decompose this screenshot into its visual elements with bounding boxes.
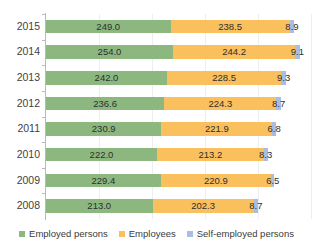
axis-tick [42, 168, 46, 169]
legend-item[interactable]: Self-employed persons [187, 228, 294, 239]
bar-value-label: 224.3 [164, 97, 276, 111]
bar-value-label: 222.0 [46, 148, 157, 162]
legend-label: Self-employed persons [197, 228, 294, 239]
bar-row: 2011230.9221.96.8 [46, 117, 311, 143]
bar-value-label: 213.2 [157, 148, 264, 162]
legend-swatch-icon [19, 231, 25, 237]
bar-value-label: 9.3 [270, 71, 298, 85]
bar-value-label: 230.9 [46, 122, 161, 136]
stacked-bar-chart: 2015249.0238.58.92014254.0244.29.1201324… [0, 0, 313, 248]
bar-value-label: 236.6 [46, 97, 164, 111]
axis-tick [42, 14, 46, 15]
legend-label: Employees [129, 228, 176, 239]
chart-legend: Employed personsEmployeesSelf-employed p… [0, 228, 313, 239]
bar-value-label: 8.3 [252, 148, 280, 162]
bar-row: 2008213.0202.38.7 [46, 193, 311, 219]
axis-tick [42, 193, 46, 194]
bar-value-label: 244.2 [173, 45, 295, 59]
bar-row: 2012236.6224.38.7 [46, 91, 311, 117]
axis-tick [42, 65, 46, 66]
category-label: 2008 [0, 199, 40, 212]
legend-swatch-icon [187, 231, 193, 237]
bar-value-label: 221.9 [161, 122, 272, 136]
bar-value-label: 220.9 [161, 174, 271, 188]
legend-item[interactable]: Employees [119, 228, 176, 239]
category-label: 2012 [0, 97, 40, 110]
bar-value-label: 213.0 [46, 199, 153, 213]
bar-value-label: 238.5 [171, 20, 290, 34]
bar-row: 2009229.4220.96.5 [46, 168, 311, 194]
bar-value-label: 254.0 [46, 45, 173, 59]
bar-value-label: 8.9 [278, 20, 306, 34]
bar-rows: 2015249.0238.58.92014254.0244.29.1201324… [46, 14, 311, 219]
bar-value-label: 8.7 [265, 97, 293, 111]
bar-value-label: 249.0 [46, 20, 171, 34]
axis-tick [42, 142, 46, 143]
bar-value-label: 8.7 [242, 199, 270, 213]
category-label: 2013 [0, 71, 40, 84]
bar-value-label: 242.0 [46, 71, 167, 85]
bar-value-label: 9.1 [283, 45, 311, 59]
plot-area: 2015249.0238.58.92014254.0244.29.1201324… [46, 14, 311, 219]
axis-tick [42, 91, 46, 92]
bar-value-label: 6.5 [259, 174, 287, 188]
category-label: 2010 [0, 148, 40, 161]
bar-row: 2013242.0228.59.3 [46, 65, 311, 91]
legend-label: Employed persons [29, 228, 108, 239]
category-label: 2009 [0, 174, 40, 187]
category-label: 2015 [0, 20, 40, 33]
bar-row: 2010222.0213.28.3 [46, 142, 311, 168]
bar-row: 2014254.0244.29.1 [46, 40, 311, 66]
category-label: 2014 [0, 45, 40, 58]
legend-item[interactable]: Employed persons [19, 228, 108, 239]
category-label: 2011 [0, 122, 40, 135]
bar-value-label: 228.5 [167, 71, 281, 85]
bar-row: 2015249.0238.58.9 [46, 14, 311, 40]
bar-value-label: 6.8 [260, 122, 288, 136]
axis-tick [42, 40, 46, 41]
legend-swatch-icon [119, 231, 125, 237]
bar-value-label: 202.3 [153, 199, 254, 213]
axis-tick [42, 117, 46, 118]
bar-value-label: 229.4 [46, 174, 161, 188]
